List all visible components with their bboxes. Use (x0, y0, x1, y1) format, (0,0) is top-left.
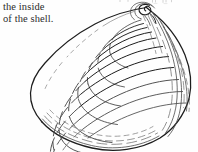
caption-text: the inside of the shell. (3, 1, 54, 24)
caption-line-2: of the shell. (3, 13, 54, 25)
posterior-flank-lines (144, 13, 190, 137)
illustration-page: the inside of the shell. (0, 0, 198, 152)
ventral-margin-lines (43, 110, 160, 148)
caption-line-1: the inside (3, 1, 54, 13)
shell-outline (30, 8, 190, 151)
